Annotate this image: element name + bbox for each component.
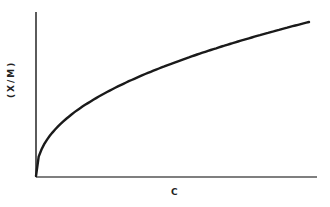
chart-plot <box>0 0 330 207</box>
data-curve <box>36 22 309 176</box>
y-axis-label: (X/M) <box>6 58 18 98</box>
x-axis-label: C <box>171 187 178 197</box>
